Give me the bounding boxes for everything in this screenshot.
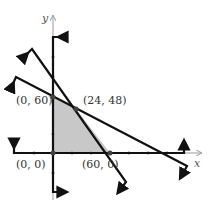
x-axis-label: x [194, 157, 201, 170]
y-axis-label: y [41, 12, 49, 25]
vertex-label-24-48: (24, 48) [83, 94, 127, 107]
vertex-24-48 [74, 107, 79, 112]
vertex-label-0-60: (0, 60) [16, 94, 53, 107]
vertex-label-0-0: (0, 0) [16, 158, 46, 171]
vertex-60-0 [108, 151, 113, 156]
feasible-region-diagram: y x (0, 60) (24, 48) (0, 0) (60, 0) [0, 0, 212, 209]
vertex-label-60-0: (60, 0) [82, 158, 119, 171]
vertex-0-0 [51, 151, 56, 156]
